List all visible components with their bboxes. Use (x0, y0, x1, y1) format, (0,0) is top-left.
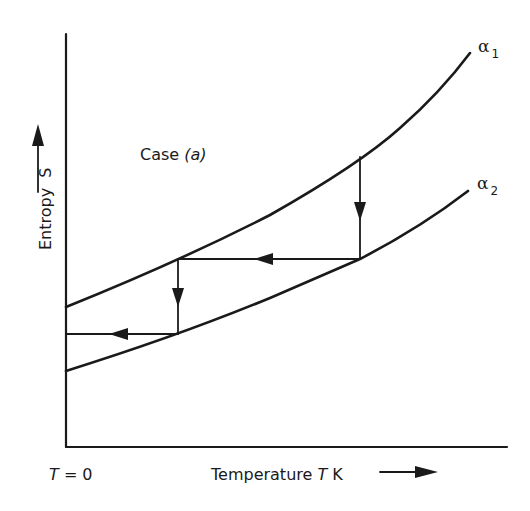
origin-symbol: T (49, 465, 59, 484)
y-axis-label-text: Entropy (36, 188, 55, 250)
entropy-temperature-diagram (0, 0, 530, 511)
arrowhead-down-icon (354, 202, 366, 221)
x-axis-unit: K (332, 465, 343, 484)
arrow-right-icon (415, 466, 438, 478)
x-axis-label: Temperature T K (211, 465, 343, 484)
alpha1-symbol: α (478, 36, 489, 56)
alpha1-subscript: 1 (491, 47, 499, 61)
alpha2-symbol: α (477, 173, 488, 193)
origin-label: T = 0 (49, 465, 93, 484)
x-axis-symbol: T (317, 465, 327, 484)
arrowhead-left-icon (109, 328, 128, 340)
case-text: Case (140, 145, 179, 164)
y-axis-label: Entropy S (36, 168, 55, 251)
curve-alpha1 (66, 53, 470, 307)
y-axis-symbol: S (36, 168, 55, 178)
curve-label-alpha2: α2 (477, 173, 498, 193)
alpha2-subscript: 2 (490, 184, 498, 198)
origin-text: = 0 (64, 465, 93, 484)
arrow-up-icon (32, 124, 44, 146)
x-axis-label-text: Temperature (211, 465, 312, 484)
arrowhead-down-icon (172, 288, 184, 307)
case-label: Case (a) (140, 145, 207, 164)
arrowhead-left-icon (254, 253, 273, 265)
case-variable: (a) (184, 145, 206, 164)
curve-label-alpha1: α1 (478, 36, 499, 56)
